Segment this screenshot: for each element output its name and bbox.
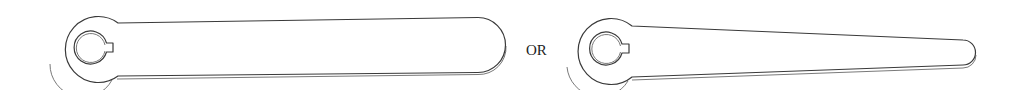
arm-options-diagram: OR (0, 0, 1030, 90)
tapered-arm-part (567, 18, 976, 90)
or-label: OR (526, 42, 547, 58)
straight-arm-outline (65, 17, 505, 83)
straight-arm-part (50, 17, 506, 90)
